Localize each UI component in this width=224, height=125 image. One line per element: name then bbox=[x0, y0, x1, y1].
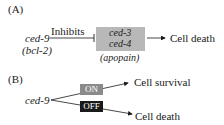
cell-survival-label: Cell survival bbox=[134, 76, 191, 88]
inhibits-label: Inhibits bbox=[51, 25, 85, 37]
panel-a-label: (A) bbox=[8, 3, 23, 15]
panel-b-label: (B) bbox=[8, 73, 23, 85]
ced9-b-label: ced-9 bbox=[25, 94, 49, 106]
bcl2-alias: (bcl-2) bbox=[22, 44, 52, 56]
ced9-label: ced-9 bbox=[25, 32, 49, 44]
ced4-label: ced-4 bbox=[109, 38, 131, 49]
apopain-alias: (apopain) bbox=[100, 52, 139, 63]
ced3-label: ced-3 bbox=[109, 27, 131, 38]
off-switch: OFF bbox=[80, 101, 103, 112]
on-switch: ON bbox=[80, 84, 103, 95]
cell-death-b: Cell death bbox=[135, 110, 180, 122]
cell-death-a: Cell death bbox=[170, 32, 215, 44]
